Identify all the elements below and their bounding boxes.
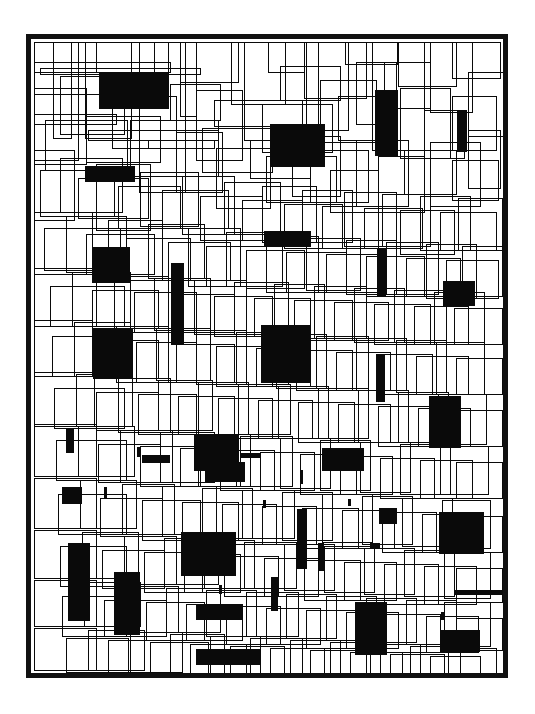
filled-rectangle	[263, 500, 266, 508]
filled-rectangle	[219, 585, 222, 594]
filled-rectangle	[441, 630, 480, 652]
filled-rectangle	[196, 649, 260, 665]
filled-rectangle	[62, 487, 82, 504]
filled-rectangle	[142, 455, 170, 463]
filled-rectangle	[137, 447, 140, 457]
filled-rectangle	[171, 263, 184, 345]
filled-rectangle	[348, 499, 351, 506]
filled-rectangle	[114, 572, 140, 635]
filled-rectangle	[196, 605, 243, 620]
filled-rectangle	[264, 231, 311, 247]
filled-rectangle	[99, 73, 168, 108]
filled-rectangle	[66, 428, 74, 453]
filled-rectangle	[439, 512, 484, 554]
abstract-rectangle-composition	[0, 0, 535, 714]
filled-rectangle	[454, 590, 504, 595]
filled-rectangle	[205, 462, 245, 482]
filled-rectangle	[297, 509, 307, 569]
filled-rectangle	[318, 543, 324, 571]
filled-rectangle	[322, 448, 364, 471]
filled-rectangle	[370, 543, 380, 549]
filled-rectangle	[68, 543, 90, 621]
filled-rectangle	[271, 577, 278, 611]
filled-rectangle	[430, 405, 436, 407]
filled-rectangle	[457, 110, 467, 152]
filled-rectangle	[93, 328, 133, 379]
filled-rectangle	[376, 355, 385, 402]
filled-rectangle	[240, 453, 260, 458]
filled-rectangle	[390, 126, 398, 156]
artwork-canvas	[0, 0, 535, 714]
filled-rectangle	[82, 607, 85, 617]
filled-rectangle	[261, 325, 311, 383]
filled-rectangle	[379, 508, 397, 524]
filled-rectangle	[104, 487, 107, 499]
filled-rectangle	[270, 124, 325, 167]
filled-rectangle	[300, 470, 303, 484]
filled-rectangle	[181, 532, 236, 576]
filled-rectangle	[441, 612, 444, 620]
filled-rectangle	[92, 247, 130, 283]
filled-rectangle	[355, 602, 387, 655]
filled-rectangle	[429, 396, 461, 448]
filled-rectangle	[85, 166, 135, 182]
filled-rectangle	[463, 297, 469, 307]
filled-rectangle	[377, 249, 386, 297]
filled-rectangle	[455, 433, 458, 439]
filled-rectangle	[443, 281, 475, 306]
